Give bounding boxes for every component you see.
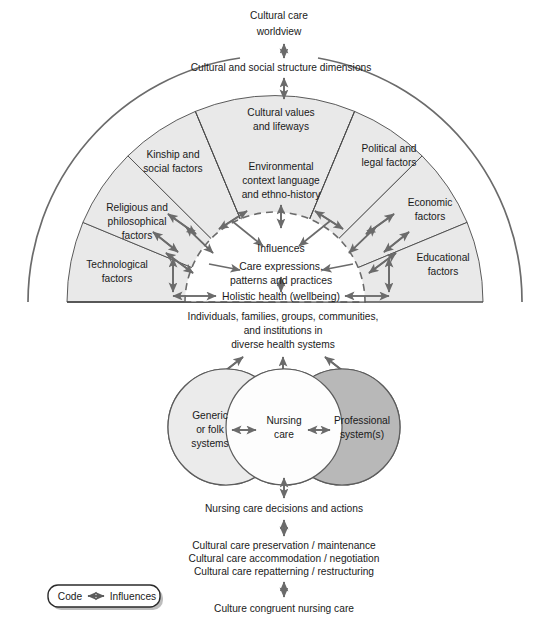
worldview-line-1: Cultural care — [250, 10, 308, 21]
svg-text:Technological: Technological — [86, 259, 148, 270]
sector-label-environmental: Environmental context language and ethno… — [242, 161, 322, 200]
svg-text:philosophical: philosophical — [108, 216, 167, 227]
svg-text:social factors: social factors — [143, 163, 202, 174]
svg-text:factors: factors — [428, 266, 459, 277]
svg-text:Religious and: Religious and — [106, 202, 168, 213]
svg-text:Care expressions,: Care expressions, — [239, 261, 323, 272]
cultural-social-structure-dimensions-label: Cultural and social structure dimensions — [191, 62, 372, 73]
people-systems-label: Individuals, families, groups, communiti… — [188, 311, 379, 350]
svg-text:systems: systems — [191, 438, 228, 449]
circle-label-generic-folk: Generic or folk systems — [191, 410, 228, 449]
legend-code-label: Code — [58, 591, 83, 602]
svg-text:Generic: Generic — [192, 410, 228, 421]
holistic-health-label: Holistic health (wellbeing) — [222, 291, 340, 302]
svg-text:care: care — [274, 429, 294, 440]
svg-text:and institutions in: and institutions in — [244, 325, 323, 336]
svg-text:Economic: Economic — [408, 197, 453, 208]
svg-text:and lifeways: and lifeways — [253, 121, 309, 132]
nursing-care-decisions-label: Nursing care decisions and actions — [205, 503, 363, 514]
svg-text:diverse health systems: diverse health systems — [231, 339, 335, 350]
svg-text:factors: factors — [415, 211, 446, 222]
culture-congruent-care-label: Culture congruent nursing care — [214, 603, 354, 614]
svg-text:Cultural care repatterning / r: Cultural care repatterning / restructuri… — [194, 566, 374, 577]
svg-text:factors: factors — [122, 230, 153, 241]
svg-text:Political and: Political and — [362, 143, 417, 154]
svg-text:Cultural care preservation / m: Cultural care preservation / maintenance — [192, 540, 376, 551]
svg-text:Kinship and: Kinship and — [146, 149, 200, 160]
sunrise-model-diagram: Cultural care worldview Cultural and soc… — [0, 0, 559, 622]
svg-text:Professional: Professional — [334, 415, 390, 426]
svg-text:patterns and practices: patterns and practices — [230, 275, 332, 286]
diagram-canvas: Cultural care worldview Cultural and soc… — [0, 0, 559, 622]
svg-text:Cultural care accommodation /: Cultural care accommodation / negotiatio… — [189, 553, 380, 564]
svg-text:Nursing: Nursing — [266, 415, 301, 426]
worldview-line-2: worldview — [256, 26, 302, 37]
legend-influences-label: Influences — [110, 591, 156, 602]
svg-text:Cultural values: Cultural values — [247, 107, 314, 118]
svg-text:legal factors: legal factors — [362, 157, 417, 168]
care-modes-list: Cultural care preservation / maintenance… — [189, 540, 380, 577]
svg-text:Environmental: Environmental — [248, 161, 313, 172]
svg-text:or folk: or folk — [196, 424, 225, 435]
legend-code-box: Code Influences — [48, 585, 163, 610]
svg-text:context language: context language — [242, 175, 320, 186]
svg-text:system(s): system(s) — [340, 429, 384, 440]
svg-text:and ethno-history: and ethno-history — [242, 189, 322, 200]
cultural-care-worldview-label: Cultural care worldview — [250, 10, 308, 37]
svg-text:factors: factors — [102, 273, 133, 284]
svg-text:Educational: Educational — [416, 252, 469, 263]
svg-text:Individuals, families, groups,: Individuals, families, groups, communiti… — [188, 311, 379, 322]
influences-label: Influences — [257, 243, 304, 254]
